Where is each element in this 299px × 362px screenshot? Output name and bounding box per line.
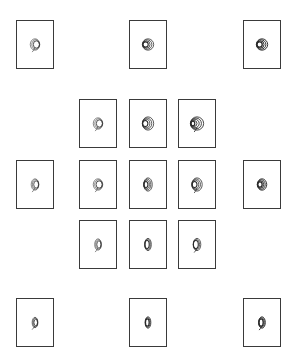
panel-mid-left <box>16 160 54 209</box>
panel-grid-r3-c3 <box>178 220 216 269</box>
panel-grid-r2-c3 <box>178 160 216 209</box>
spiral-trace-icon <box>244 299 280 346</box>
spiral-trace-icon <box>130 221 166 268</box>
spiral-trace-icon <box>130 100 166 147</box>
spiral-trace-icon <box>17 299 53 346</box>
spiral-trace-icon <box>80 221 116 268</box>
spiral-trace-icon <box>17 161 53 208</box>
spiral-trace-icon <box>179 221 215 268</box>
panel-bottom-left <box>16 298 54 347</box>
panel-grid-r1-c2 <box>129 99 167 148</box>
panel-grid-r2-c1 <box>79 160 117 209</box>
spiral-trace-icon <box>17 21 53 68</box>
panel-top-center <box>129 20 167 69</box>
panel-grid-r2-c2 <box>129 160 167 209</box>
spiral-trace-icon <box>130 161 166 208</box>
panel-top-left <box>16 20 54 69</box>
panel-bottom-right <box>243 298 281 347</box>
spiral-trace-icon <box>244 21 280 68</box>
panel-grid-r1-c1 <box>79 99 117 148</box>
spiral-trace-icon <box>80 100 116 147</box>
panel-top-right <box>243 20 281 69</box>
spiral-trace-icon <box>80 161 116 208</box>
panel-mid-right <box>243 160 281 209</box>
spiral-trace-icon <box>130 21 166 68</box>
spiral-trace-icon <box>244 161 280 208</box>
panel-grid-r3-c2 <box>129 220 167 269</box>
spiral-trace-icon <box>179 100 215 147</box>
panel-grid-r1-c3 <box>178 99 216 148</box>
panel-grid-r3-c1 <box>79 220 117 269</box>
spiral-trace-icon <box>130 299 166 346</box>
panel-bottom-center <box>129 298 167 347</box>
spiral-trace-icon <box>179 161 215 208</box>
